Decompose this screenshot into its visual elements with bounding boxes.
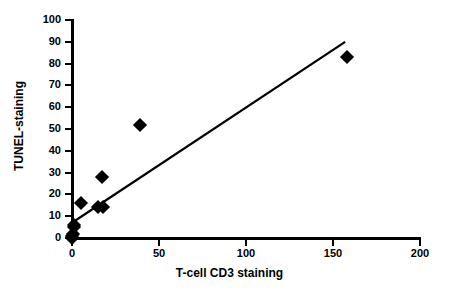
y-tick-mark [65, 41, 72, 43]
x-tick-label: 100 [226, 247, 266, 259]
y-tick-mark [65, 193, 72, 195]
data-point-marker [340, 50, 354, 64]
y-tick-label: 10 [27, 210, 61, 221]
y-tick-mark [65, 19, 72, 21]
y-tick-label: 90 [27, 36, 61, 47]
data-point-marker [74, 196, 88, 210]
y-tick-label: 70 [27, 79, 61, 90]
y-tick-label: 20 [27, 188, 61, 199]
x-tick-mark [419, 239, 421, 246]
x-tick-mark [245, 239, 247, 246]
y-tick-label: 60 [27, 101, 61, 112]
y-tick-mark [65, 150, 72, 152]
y-axis-title: TUNEL-staining [12, 56, 26, 196]
plot-area: 0102030405060708090100 050100150200 [0, 0, 459, 293]
x-tick-label: 50 [139, 247, 179, 259]
x-tick-label: 200 [400, 247, 440, 259]
data-point-marker [95, 170, 109, 184]
y-tick-mark [65, 84, 72, 86]
data-point-marker [133, 118, 147, 132]
y-tick-label: 80 [27, 58, 61, 69]
x-tick-mark [332, 239, 334, 246]
y-tick-label: 40 [27, 145, 61, 156]
y-tick-mark [65, 215, 72, 217]
y-tick-mark [65, 106, 72, 108]
y-tick-label: 100 [27, 14, 61, 25]
x-tick-label: 150 [313, 247, 353, 259]
y-tick-mark [65, 63, 72, 65]
y-tick-label: 30 [27, 167, 61, 178]
y-tick-label: 0 [27, 232, 61, 243]
x-tick-label: 0 [52, 247, 92, 259]
x-axis-title: T-cell CD3 staining [0, 266, 459, 280]
scatter-chart: 0102030405060708090100 050100150200 T-ce… [0, 0, 459, 293]
y-tick-mark [65, 128, 72, 130]
y-tick-label: 50 [27, 123, 61, 134]
y-tick-mark [65, 172, 72, 174]
x-tick-mark [158, 239, 160, 246]
